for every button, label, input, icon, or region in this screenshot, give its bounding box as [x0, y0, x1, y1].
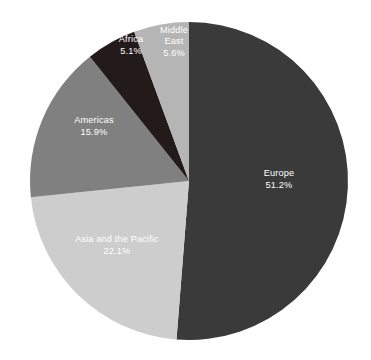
pie-slice-label: Europe51.2%: [264, 169, 295, 191]
pie-slice-value-text: 22.1%: [104, 246, 131, 256]
pie-slice-value-text: 51.2%: [266, 180, 293, 190]
pie-slice-name-text: Americas: [74, 116, 114, 126]
pie-slice-value-text: 5.1%: [120, 46, 142, 56]
pie-chart-canvas: Europe51.2%Asia and the Pacific22.1%Amer…: [0, 0, 371, 360]
pie-slice-name-text: Africa: [119, 35, 144, 45]
pie-slice-name-text: Middle: [160, 25, 188, 35]
pie-slice-value-text: 5.6%: [163, 48, 185, 58]
pie-slice-value-text: 15.9%: [81, 127, 108, 137]
pie-slices: [30, 22, 348, 340]
pie-slice[interactable]: [177, 22, 348, 340]
pie-slice-name-text: Asia and the Pacific: [75, 235, 159, 245]
pie-slice-name-text: East: [165, 36, 184, 46]
pie-slice-label: Africa5.1%: [119, 35, 144, 57]
pie-slice[interactable]: [31, 181, 189, 340]
pie-slice-name-text: Europe: [264, 169, 295, 179]
pie-chart: Europe51.2%Asia and the Pacific22.1%Amer…: [0, 0, 371, 360]
